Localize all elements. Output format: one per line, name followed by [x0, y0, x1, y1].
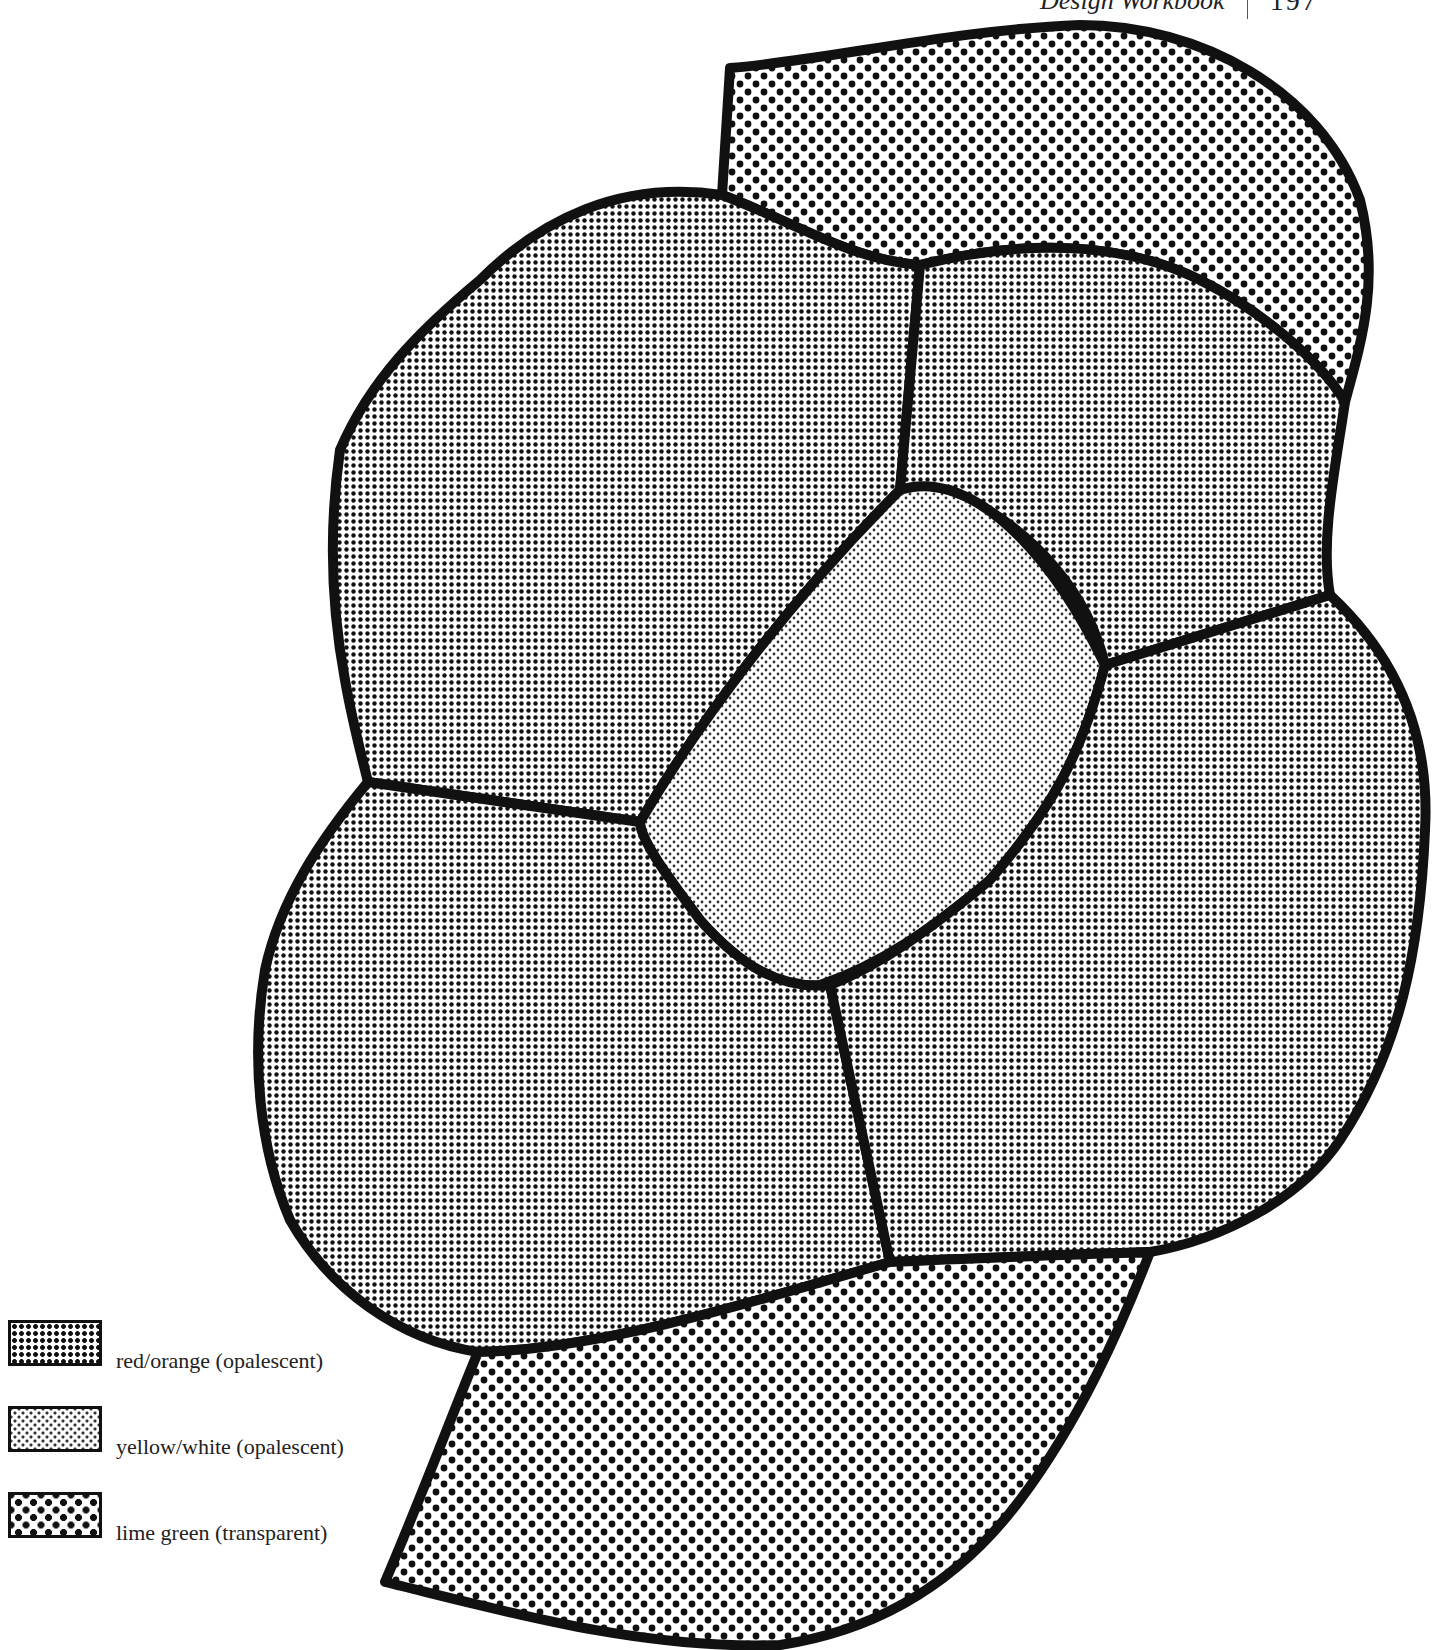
swatch-lime-green — [8, 1492, 102, 1538]
legend-label: lime green (transparent) — [116, 1520, 327, 1546]
legend-label: yellow/white (opalescent) — [116, 1434, 344, 1460]
swatch-yellow-white — [8, 1406, 102, 1452]
legend-item-lime-green: lime green (transparent) — [8, 1492, 327, 1538]
legend-label: red/orange (opalescent) — [116, 1348, 323, 1374]
swatch-red-orange — [8, 1320, 102, 1366]
stained-glass-diagram — [0, 0, 1435, 1650]
legend-item-red-orange: red/orange (opalescent) — [8, 1320, 323, 1366]
legend-item-yellow-white: yellow/white (opalescent) — [8, 1406, 344, 1452]
